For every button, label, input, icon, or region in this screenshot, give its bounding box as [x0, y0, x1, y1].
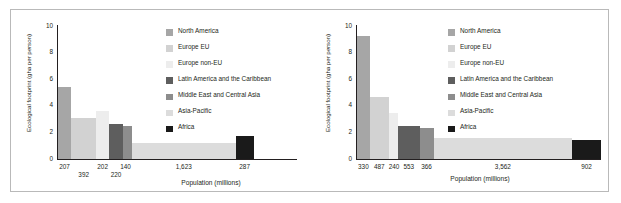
x-tick-366-right: 366	[420, 164, 434, 170]
x-tick-553-right: 553	[398, 164, 420, 170]
legend-swatch-north-america-icon	[448, 29, 455, 36]
legend-label-asia-pacific: Asia-Pacific	[178, 108, 211, 114]
legend-label-middle-east: Middle East and Central Asia	[178, 92, 260, 98]
x-axis-title-left: Population (millions)	[151, 179, 271, 186]
legend-swatch-north-america-icon	[166, 29, 173, 36]
bar-africa-left	[236, 136, 254, 160]
x-tick-902-right: 902	[572, 164, 601, 170]
legend-swatch-europe-eu-icon	[166, 45, 173, 52]
legend-swatch-latin-america-icon	[166, 77, 173, 84]
y-tick-0-left: 0	[35, 156, 53, 162]
bar-latin-america-left	[109, 124, 123, 160]
legend-swatch-middle-east-icon	[166, 94, 173, 101]
x-axis-title-right: Population (millions)	[420, 175, 540, 182]
legend-swatch-europe-eu-icon	[448, 45, 455, 52]
legend-label-europe-non-eu: Europe non-EU	[460, 60, 504, 66]
legend-label-europe-eu: Europe EU	[178, 44, 209, 50]
bar-europe-non-eu-right	[389, 113, 398, 159]
bar-europe-non-eu-left	[96, 111, 109, 159]
x-tick-240-right: 240	[389, 164, 398, 170]
legend-label-north-america: North America	[178, 28, 219, 34]
bar-north-america-right	[357, 36, 370, 159]
bar-africa-right	[572, 140, 601, 159]
legend-swatch-africa-icon	[448, 126, 455, 133]
legend-label-africa: Africa	[460, 124, 476, 130]
legend-swatch-africa-icon	[166, 126, 173, 133]
y-tick-6-left: 6	[35, 76, 53, 82]
legend-label-latin-america: Latin America and the Caribbean	[178, 76, 271, 82]
y-axis-title-left: Ecological footprint (gha per person)	[25, 24, 39, 142]
y-tick-2-left: 2	[35, 129, 53, 135]
bar-latin-america-right	[398, 126, 420, 160]
legend-label-asia-pacific: Asia-Pacific	[460, 108, 493, 114]
bar-asia-pacific-right	[434, 138, 572, 159]
legend-swatch-asia-pacific-icon	[166, 110, 173, 117]
x-tick-330-right: 330	[357, 164, 370, 170]
x-tick-140-left: 140	[119, 164, 132, 170]
legend-label-north-america: North America	[460, 28, 501, 34]
y-tick-0-right: 0	[334, 156, 352, 162]
legend-label-europe-eu: Europe EU	[460, 44, 491, 50]
legend-swatch-latin-america-icon	[448, 77, 455, 84]
y-tick-6-right: 6	[334, 76, 352, 82]
legend-swatch-europe-non-eu-icon	[448, 61, 455, 68]
figure-container: Ecological footprint (gha per person) 10…	[10, 9, 609, 192]
legend-swatch-middle-east-icon	[448, 94, 455, 101]
legend-label-latin-america: Latin America and the Caribbean	[460, 76, 553, 82]
legend-label-africa: Africa	[178, 124, 194, 130]
bar-middle-east-right	[420, 128, 434, 159]
x-tick-487-right: 487	[370, 164, 389, 170]
y-tick-8-right: 8	[334, 49, 352, 55]
legend-label-middle-east: Middle East and Central Asia	[460, 92, 542, 98]
y-tick-4-left: 4	[35, 102, 53, 108]
legend-swatch-europe-non-eu-icon	[166, 61, 173, 68]
x-tick-202-left: 202	[96, 164, 109, 170]
x-tick-220-left: 220	[109, 172, 123, 178]
legend-swatch-asia-pacific-icon	[448, 110, 455, 117]
chart-panel-left: Ecological footprint (gha per person) 10…	[11, 10, 310, 191]
bar-asia-pacific-left	[132, 143, 236, 159]
x-tick-392-left: 392	[71, 172, 96, 178]
bar-middle-east-left	[123, 126, 132, 160]
y-tick-2-right: 2	[334, 129, 352, 135]
y-tick-10-right: 10	[334, 23, 352, 29]
x-tick-207-left: 207	[58, 164, 71, 170]
y-tick-8-left: 8	[35, 49, 53, 55]
chart-panel-right: Ecological footprint (gha per person) 10…	[310, 10, 609, 191]
x-tick-287-left: 287	[236, 164, 254, 170]
legend-label-europe-non-eu: Europe non-EU	[178, 60, 222, 66]
bar-europe-eu-right	[370, 97, 389, 159]
bar-europe-eu-left	[71, 118, 96, 159]
y-axis-title-right: Ecological footprint (gha per person)	[324, 24, 338, 142]
y-tick-4-right: 4	[334, 102, 352, 108]
bar-north-america-left	[58, 87, 71, 159]
x-tick-1623-left: 1,623	[132, 164, 236, 170]
x-tick-3562-right: 3,562	[434, 164, 572, 170]
y-tick-10-left: 10	[35, 23, 53, 29]
